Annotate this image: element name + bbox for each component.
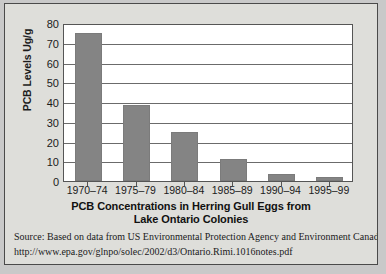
bar[interactable]: [316, 177, 343, 181]
x-axis-tick-label: 1970–74: [63, 184, 111, 196]
bar-slot: [161, 25, 209, 181]
chart-title-line-1: PCB Concentrations in Herring Gull Eggs …: [5, 200, 377, 213]
x-axis-tick-label: 1990–94: [256, 184, 304, 196]
source-line-1: Source: Based on data from US Environmen…: [14, 230, 374, 245]
x-axis-tick-label: 1980–84: [160, 184, 208, 196]
bar[interactable]: [75, 33, 102, 181]
bar-slot: [112, 25, 160, 181]
y-axis-tick-labels: 01020304050607080: [9, 24, 59, 182]
y-axis-tick-label: 50: [13, 77, 59, 89]
bar-chart: PCB Levels Ug/g 01020304050607080 1970–7…: [5, 4, 377, 200]
bar-slot: [306, 25, 354, 181]
y-axis-tick-label: 70: [13, 38, 59, 50]
source-note: Source: Based on data from US Environmen…: [14, 230, 374, 259]
y-axis-tick-label: 10: [13, 156, 59, 168]
bar[interactable]: [220, 159, 247, 181]
bar-series: [64, 25, 352, 181]
bar[interactable]: [268, 174, 295, 181]
y-axis-tick-label: 30: [13, 117, 59, 129]
bar[interactable]: [171, 132, 198, 181]
source-url: http://www.epa.gov/glnpo/solec/2002/d3/O…: [14, 245, 374, 260]
chart-title: PCB Concentrations in Herring Gull Eggs …: [5, 200, 377, 226]
y-axis-tick-label: 40: [13, 97, 59, 109]
bar-slot: [257, 25, 305, 181]
y-axis-tick-label: 80: [13, 18, 59, 30]
x-axis-tick-label: 1995–99: [305, 184, 353, 196]
bar[interactable]: [123, 105, 150, 181]
x-axis-tick-label: 1985–89: [208, 184, 256, 196]
y-axis-tick-label: 20: [13, 137, 59, 149]
plot-area: [63, 24, 353, 182]
x-axis-tick-label: 1975–79: [111, 184, 159, 196]
figure-container: PCB Levels Ug/g 01020304050607080 1970–7…: [4, 3, 378, 265]
bar-slot: [209, 25, 257, 181]
y-axis-tick-label: 60: [13, 58, 59, 70]
chart-title-line-2: Lake Ontario Colonies: [5, 213, 377, 226]
y-axis-tick-label: 0: [13, 176, 59, 188]
bar-slot: [64, 25, 112, 181]
